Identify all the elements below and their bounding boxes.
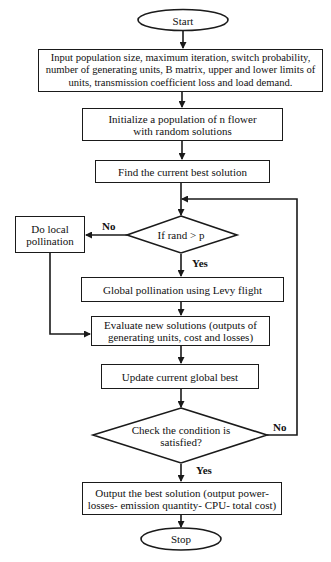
stop-terminal: Stop [141,528,221,550]
local-pollination-text: Do local pollination [24,223,76,247]
update-global-best-box: Update current global best [101,364,259,389]
input-parameters-box: Input population size, maximum iteration… [38,49,323,92]
update-global-best-text: Update current global best [122,371,238,383]
output-solution-text: Output the best solution (output power- … [86,487,278,511]
output-solution-box: Output the best solution (output power- … [82,482,282,515]
rand-decision-text: If rand > p [158,229,205,241]
global-pollination-text: Global pollination using Levy flight [103,284,262,296]
find-best-text: Find the current best solution [118,166,247,178]
global-pollination-box: Global pollination using Levy flight [81,277,284,302]
initialize-population-box: Initialize a population of n flower with… [82,108,283,141]
stop-label: Stop [171,533,191,545]
local-pollination-box: Do local pollination [15,216,85,253]
condition-decision-text: Check the condition is satisfied? [120,424,242,448]
condition-decision: Check the condition is satisfied? [120,422,242,450]
initialize-population-text: Initialize a population of n flower with… [101,113,264,137]
rand-decision: If rand > p [135,226,227,244]
find-best-box: Find the current best solution [95,160,270,183]
condition-no-label: No [273,421,286,433]
rand-yes-label: Yes [192,257,208,269]
evaluate-solutions-text: Evaluate new solutions (outputs of gener… [96,319,265,343]
rand-no-label: No [102,220,115,232]
condition-yes-label: Yes [196,464,212,476]
start-terminal: Start [138,10,228,31]
input-parameters-text: Input population size, maximum iteration… [41,52,320,90]
evaluate-solutions-box: Evaluate new solutions (outputs of gener… [91,316,270,346]
start-label: Start [173,15,194,27]
